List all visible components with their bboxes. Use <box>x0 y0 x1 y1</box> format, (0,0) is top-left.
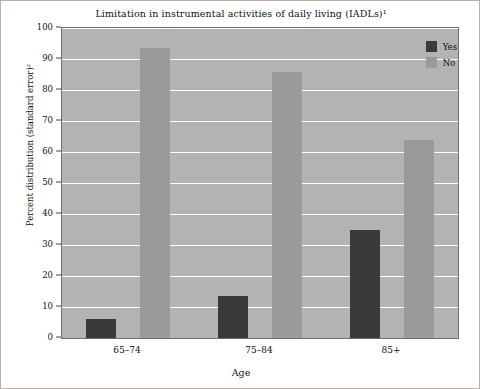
gridline <box>62 307 458 308</box>
legend-swatch-yes <box>426 41 437 52</box>
bar-no-1 <box>272 72 302 338</box>
gridline <box>62 59 458 60</box>
chart-title: Limitation in instrumental activities of… <box>1 8 480 19</box>
gridline <box>62 152 458 153</box>
y-tick-label: 0 <box>48 332 53 342</box>
x-tick-label: 65–74 <box>113 345 140 355</box>
legend: YesNo <box>426 41 457 73</box>
gridline <box>62 121 458 122</box>
legend-label: Yes <box>443 42 457 52</box>
y-tick-label: 60 <box>42 146 53 156</box>
gridline <box>62 90 458 91</box>
chart-figure: Limitation in instrumental activities of… <box>0 0 480 389</box>
x-axis-label: Age <box>1 367 480 378</box>
legend-item-no: No <box>426 57 457 68</box>
y-tick-label: 50 <box>42 177 53 187</box>
x-tick-label: 85+ <box>382 345 401 355</box>
y-tick-label: 70 <box>42 115 53 125</box>
bar-yes-0 <box>86 319 116 338</box>
y-axis-label: Percent distribution (standard error)² <box>25 0 35 295</box>
gridline <box>62 276 458 277</box>
y-tick-label: 80 <box>42 84 53 94</box>
y-tick-label: 40 <box>42 208 53 218</box>
bar-no-0 <box>140 48 170 338</box>
y-tick-label: 20 <box>42 270 53 280</box>
bar-no-2 <box>404 140 434 338</box>
legend-item-yes: Yes <box>426 41 457 52</box>
x-tick-label: 75–84 <box>245 345 272 355</box>
y-tick-label: 30 <box>42 239 53 249</box>
bar-yes-2 <box>350 230 380 338</box>
y-tick-label: 10 <box>42 301 53 311</box>
bar-yes-1 <box>218 296 248 338</box>
plot-area <box>61 27 459 339</box>
legend-swatch-no <box>426 57 437 68</box>
gridline <box>62 214 458 215</box>
legend-label: No <box>443 58 456 68</box>
gridline <box>62 28 458 29</box>
y-tick-label: 100 <box>37 22 53 32</box>
y-tick-label: 90 <box>42 53 53 63</box>
gridline <box>62 183 458 184</box>
gridline <box>62 245 458 246</box>
